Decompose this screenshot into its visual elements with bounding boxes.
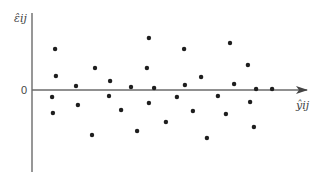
data-point-19 (175, 95, 179, 99)
residual-plot: ε̂ij ŷij 0 (0, 0, 325, 174)
data-point-14 (145, 66, 149, 70)
data-point-1 (53, 47, 57, 51)
data-point-6 (76, 103, 80, 107)
data-point-30 (248, 100, 252, 104)
data-points (50, 36, 274, 140)
data-point-5 (74, 84, 78, 88)
data-point-15 (147, 36, 151, 40)
data-point-22 (191, 109, 195, 113)
data-point-20 (182, 47, 186, 51)
data-point-28 (232, 82, 236, 86)
data-point-26 (224, 112, 228, 116)
data-point-33 (270, 87, 274, 91)
data-point-7 (93, 66, 97, 70)
data-point-11 (119, 108, 123, 112)
data-point-27 (228, 41, 232, 45)
data-point-29 (246, 63, 250, 67)
data-point-10 (107, 94, 111, 98)
data-point-2 (54, 74, 58, 78)
y-tick-label-zero: 0 (21, 84, 27, 96)
data-point-12 (129, 85, 133, 89)
data-point-9 (108, 79, 112, 83)
data-point-31 (252, 125, 256, 129)
data-point-3 (50, 95, 54, 99)
data-point-16 (147, 101, 151, 105)
y-axis-label: ε̂ij (14, 12, 27, 25)
data-point-4 (51, 111, 55, 115)
data-point-17 (152, 86, 156, 90)
data-point-23 (199, 75, 203, 79)
data-point-24 (205, 136, 209, 140)
data-point-13 (135, 129, 139, 133)
x-axis-label: ŷij (295, 99, 310, 112)
data-point-32 (254, 87, 258, 91)
data-point-25 (216, 94, 220, 98)
data-point-18 (164, 120, 168, 124)
data-point-8 (90, 133, 94, 137)
data-point-21 (183, 83, 187, 87)
